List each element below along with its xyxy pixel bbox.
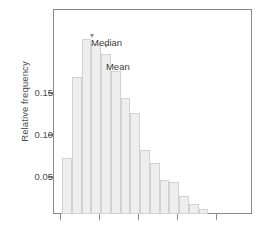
- histogram-bar: [189, 204, 199, 214]
- histogram-bar: [169, 182, 179, 214]
- histogram-bar: [179, 196, 189, 213]
- histogram-bar: [82, 39, 92, 214]
- x-tick-mark: [138, 214, 139, 220]
- y-axis-title: Relative frequency: [19, 32, 30, 172]
- histogram-bar: [91, 44, 101, 214]
- histogram-bar: [72, 77, 82, 214]
- annotation-label-mean: Mean: [106, 62, 130, 72]
- histogram-bar: [121, 98, 131, 214]
- x-tick-mark: [99, 214, 100, 220]
- y-tick-label: 0.15: [9, 88, 53, 98]
- histogram-bar: [140, 150, 150, 214]
- plot-panel: MedianMean: [53, 9, 252, 214]
- histogram-bar: [130, 113, 140, 214]
- histogram-bar: [150, 163, 160, 213]
- histogram-bar: [111, 71, 121, 214]
- histogram-figure: Relative frequency 0.15 0.10 0.05 Median…: [0, 0, 262, 232]
- histogram-bar: [160, 180, 170, 213]
- y-tick-label: 0.05: [9, 172, 53, 182]
- histogram-bar: [199, 209, 209, 214]
- histogram-bar: [62, 158, 72, 213]
- x-tick-mark: [177, 214, 178, 220]
- x-tick-mark: [216, 214, 217, 220]
- x-tick-mark: [60, 214, 61, 220]
- annotation-arrow-head: [90, 34, 94, 38]
- histogram-bar: [101, 54, 111, 214]
- annotation-arrow-head: [104, 44, 108, 48]
- y-tick-label: 0.10: [9, 130, 53, 140]
